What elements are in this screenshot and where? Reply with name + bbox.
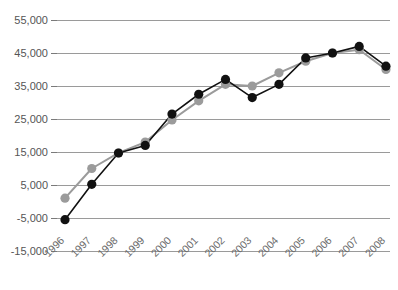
data-point-marker [248,93,257,102]
x-axis-tick-label: 1996 [41,234,66,259]
data-point-marker [274,68,283,77]
x-axis-tick-label: 2006 [309,234,334,259]
chart-container: -15,000-5,0005,00015,00025,00035,00045,0… [0,0,398,290]
x-axis-tick-label: 1999 [122,234,147,259]
y-tick-marks [51,20,57,251]
y-axis-labels: -15,000-5,0005,00015,00025,00035,00045,0… [11,14,48,257]
y-axis-tick-label: 45,000 [14,47,48,59]
data-point-marker [248,81,257,90]
data-point-marker [114,148,123,157]
data-point-marker [221,75,230,84]
data-point-marker [87,164,96,173]
x-axis-tick-label: 1998 [95,234,120,259]
data-point-marker [60,194,69,203]
data-point-marker [328,48,337,57]
x-axis-labels: 1996199719981999200020012002200320042005… [41,234,387,259]
data-point-marker [274,80,283,89]
gridlines [57,20,390,251]
data-point-marker [194,90,203,99]
data-point-marker [60,215,69,224]
x-axis-tick-label: 2004 [255,234,280,259]
y-axis-tick-label: 25,000 [14,113,48,125]
x-axis-tick-label: 2003 [229,234,254,259]
x-axis-tick-label: 2001 [175,234,200,259]
x-axis-tick-label: 2000 [148,234,173,259]
x-axis-tick-label: 2007 [336,234,361,259]
data-point-marker [87,180,96,189]
series-line-series-gray [65,50,386,199]
data-point-marker [301,53,310,62]
line-chart: -15,000-5,0005,00015,00025,00035,00045,0… [0,0,398,290]
x-axis-tick-label: 2002 [202,234,227,259]
x-axis-tick-label: 2005 [282,234,307,259]
data-point-marker [141,141,150,150]
y-axis-tick-label: 55,000 [14,14,48,26]
series-markers [60,42,390,224]
x-axis-tick-label: 2008 [362,234,387,259]
y-axis-tick-label: 15,000 [14,146,48,158]
data-point-marker [167,109,176,118]
data-point-marker [381,62,390,71]
y-axis-tick-label: 5,000 [20,179,48,191]
y-axis-tick-label: -5,000 [17,212,48,224]
series-lines [65,46,386,219]
data-point-marker [355,42,364,51]
series-line-series-black [65,46,386,219]
y-axis-tick-label: 35,000 [14,80,48,92]
x-axis-tick-label: 1997 [68,234,93,259]
